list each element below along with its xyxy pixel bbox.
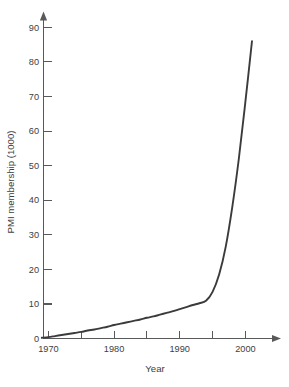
- y-tick-label-90: 90: [29, 23, 39, 33]
- data-series-line-pmi-membership: [42, 41, 252, 338]
- y-tick-label-30: 30: [29, 230, 39, 240]
- y-axis: [40, 12, 47, 339]
- line-chart-canvas: 0 10 20 30 40 50 60 70 80 90 1970 1980 1…: [0, 0, 289, 387]
- x-tick-label-1970: 1970: [38, 344, 58, 354]
- y-axis-title: PMI membership (1000): [5, 131, 16, 234]
- x-tick-label-1980: 1980: [104, 344, 124, 354]
- x-axis-arrow-icon: [272, 335, 281, 342]
- x-tick-labels: 1970 1980 1990 2000: [38, 344, 255, 354]
- y-tick-label-70: 70: [29, 92, 39, 102]
- y-tick-label-20: 20: [29, 265, 39, 275]
- y-tick-label-10: 10: [29, 299, 39, 309]
- y-tick-label-40: 40: [29, 195, 39, 205]
- y-tick-label-0: 0: [34, 334, 39, 344]
- x-axis-title: Year: [145, 363, 165, 374]
- y-tick-labels: 0 10 20 30 40 50 60 70 80 90: [29, 23, 39, 344]
- y-tick-label-50: 50: [29, 161, 39, 171]
- y-axis-arrow-icon: [40, 12, 47, 21]
- x-tick-label-1990: 1990: [169, 344, 189, 354]
- y-tick-marks: [44, 27, 52, 338]
- x-tick-label-2000: 2000: [235, 344, 255, 354]
- y-tick-label-80: 80: [29, 57, 39, 67]
- chart-figure: 0 10 20 30 40 50 60 70 80 90 1970 1980 1…: [0, 0, 289, 387]
- y-tick-label-60: 60: [29, 126, 39, 136]
